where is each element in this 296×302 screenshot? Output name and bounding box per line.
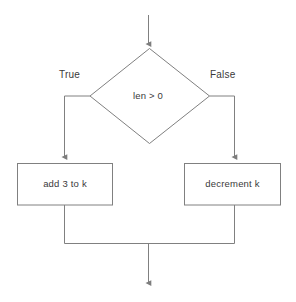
true-process-label: add 3 to k xyxy=(17,179,113,189)
false-branch-label: False xyxy=(210,70,235,80)
flowchart-canvas: len > 0 add 3 to k decrement k True Fals… xyxy=(0,0,296,302)
decision-label: len > 0 xyxy=(0,91,296,101)
false-branch-connector xyxy=(210,96,235,157)
flowchart-graphics xyxy=(0,0,296,302)
true-branch-connector xyxy=(65,96,91,157)
merge-connector xyxy=(65,205,235,244)
false-process-label: decrement k xyxy=(184,179,281,189)
true-branch-label: True xyxy=(59,70,80,80)
